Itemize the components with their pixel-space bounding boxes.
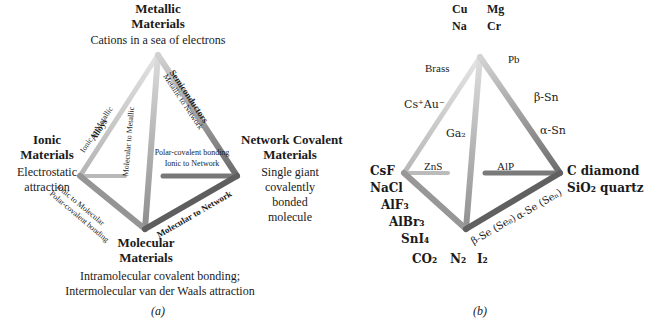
panel-b-left-albr3: AlBr₃ <box>389 216 425 229</box>
panel-b-left-sni4: SnI₄ <box>401 233 429 246</box>
panel-b-label-pb: Pb <box>508 53 520 65</box>
panel-b-apex-na: Na <box>452 20 467 33</box>
panel-b-bottom-i2: I₂ <box>477 253 488 266</box>
panel-a-molecular-desc-line2: Intermolecular van der Waals attraction <box>65 285 254 298</box>
panel-a-network-title-line2: Materials <box>263 148 316 163</box>
panel-a-metallic-title-line1: Metallic <box>135 2 180 17</box>
panel-a-metallic-description: Cations in a sea of electrons <box>91 34 226 47</box>
edge-b-sn <box>480 57 560 173</box>
panel-a-ionic-desc-line1: Electrostatic <box>17 166 77 179</box>
edge-b-ga2 <box>466 57 480 229</box>
panel-b-label-beta-sn: β-Sn <box>534 92 559 104</box>
edge-molecular-metallic <box>145 55 158 229</box>
panel-a-network-desc-line3: bonded <box>272 196 307 209</box>
panel-b-apex-mg: Mg <box>487 3 504 16</box>
panel-b-apex-cr: Cr <box>487 20 501 33</box>
panel-b-label-ga2: Ga₂ <box>446 128 466 140</box>
panel-b-letter: (b) <box>473 305 487 318</box>
panel-a-network-desc-line1: Single giant <box>261 166 319 179</box>
panel-b-right-sio2-quartz: SiO₂ quartz <box>567 182 644 195</box>
panel-b-bottom-co2: CO₂ <box>412 253 437 266</box>
panel-b-left-nacl: NaCl <box>370 182 403 195</box>
panel-b-label-alp: AlP <box>497 160 514 172</box>
panel-b-label-brass: Brass <box>425 62 449 74</box>
panel-b-bottom-n2: N₂ <box>450 253 466 266</box>
edge-alloys <box>80 55 158 176</box>
panel-b-apex-cu: Cu <box>452 3 467 16</box>
panel-a-network-desc-line4: molecule <box>268 211 312 224</box>
panel-a-edge-polar-covalent-line1: Polar-covalent bonding <box>155 149 230 158</box>
edge-b-brass <box>404 57 480 173</box>
panel-b-right-c-diamond: C diamond <box>567 165 639 178</box>
panel-a-edge-polar-covalent-line2: Ionic to Network <box>165 160 220 169</box>
panel-b-label-zns: ZnS <box>424 160 442 172</box>
panel-a-molecular-title-line1: Molecular <box>117 236 174 251</box>
panel-a-molecular-title-line2: Materials <box>119 251 172 266</box>
panel-a-metallic-title-line2: Materials <box>131 17 184 32</box>
panel-a-ionic-title-line1: Ionic <box>33 133 61 148</box>
panel-a-ionic-title-line2: Materials <box>20 148 73 163</box>
panel-b-left-csf: CsF <box>370 165 395 178</box>
figure-container: Metallic Materials Cations in a sea of e… <box>0 0 646 326</box>
panel-b-label-cs-au: Cs⁺Au⁻ <box>404 99 445 111</box>
panel-a-molecular-desc-line1: Intramolecular covalent bonding; <box>80 270 240 283</box>
panel-a-letter: (a) <box>151 305 165 318</box>
panel-a-network-title-line1: Network Covalent <box>241 133 342 148</box>
panel-a-network-desc-line2: covalently <box>265 181 315 194</box>
panel-b-left-alf3: AlF₃ <box>381 199 409 212</box>
panel-b-label-alpha-sn: α-Sn <box>540 125 566 137</box>
